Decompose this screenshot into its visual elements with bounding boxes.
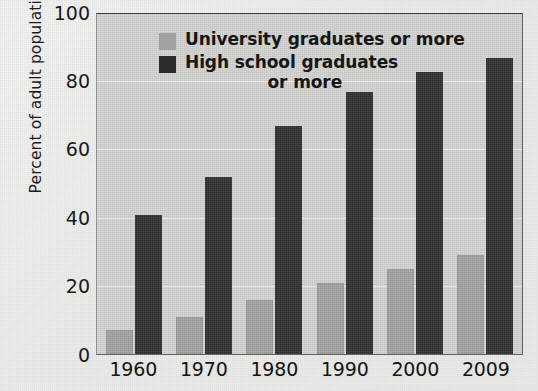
legend: University graduates or more High school… — [159, 30, 509, 95]
legend-label-highschool-line1: High school graduates — [185, 52, 398, 72]
bar — [135, 215, 162, 354]
bar — [205, 177, 232, 354]
x-tick-1970: 1970 — [169, 358, 240, 380]
y-axis-tick-labels: 100 80 60 40 20 0 — [40, 0, 90, 391]
bar — [486, 58, 513, 354]
legend-label-university: University graduates or more — [185, 30, 465, 50]
legend-label-highschool: High school graduates or more — [185, 53, 398, 92]
bar — [416, 72, 443, 354]
y-tick-80: 80 — [44, 72, 90, 91]
legend-label-highschool-line2: or more — [185, 73, 398, 93]
x-tick-2000: 2000 — [380, 358, 451, 380]
x-tick-2009: 2009 — [451, 358, 522, 380]
legend-swatch-university — [159, 33, 176, 50]
bar — [176, 317, 203, 354]
x-tick-1990: 1990 — [310, 358, 381, 380]
bar — [246, 300, 273, 354]
y-tick-0: 0 — [44, 346, 90, 365]
y-tick-100: 100 — [44, 4, 90, 23]
legend-item-highschool: High school graduates or more — [159, 53, 509, 92]
x-tick-1980: 1980 — [239, 358, 310, 380]
x-axis-tick-labels: 196019701980199020002009 — [96, 358, 523, 380]
bar — [346, 92, 373, 354]
chart-page: Percent of adult population 100 80 60 40… — [0, 0, 538, 391]
x-tick-1960: 1960 — [98, 358, 169, 380]
bar — [275, 126, 302, 354]
y-tick-60: 60 — [44, 140, 90, 159]
legend-item-university: University graduates or more — [159, 30, 509, 50]
plot-area: University graduates or more High school… — [96, 13, 523, 355]
y-tick-40: 40 — [44, 209, 90, 228]
bar — [387, 269, 414, 354]
legend-swatch-highschool — [159, 56, 176, 73]
bar — [106, 330, 133, 354]
y-tick-20: 20 — [44, 277, 90, 296]
bar — [457, 255, 484, 354]
bar — [317, 283, 344, 354]
